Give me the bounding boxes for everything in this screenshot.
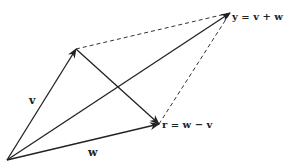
vector-v [7, 49, 76, 160]
label-r: r = w − v [162, 119, 214, 130]
dashed-edge-w-to-y [159, 13, 230, 124]
vector-diagram: v w y = v + w r = w − v [0, 0, 288, 168]
label-w: w [87, 146, 98, 159]
label-y: y = v + w [231, 11, 283, 22]
label-v: v [28, 94, 36, 107]
vector-y [7, 13, 230, 160]
dashed-edge-v-to-y [76, 13, 230, 49]
vector-r [76, 49, 159, 124]
vector-w [7, 124, 159, 160]
